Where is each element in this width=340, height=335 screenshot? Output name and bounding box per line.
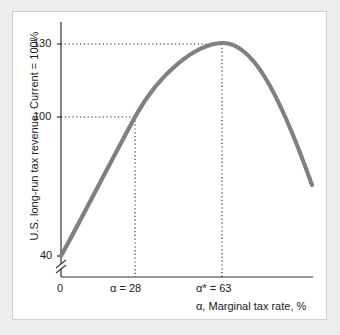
y-tick-label-130: 130 [33,38,51,49]
chart-figure: U.S. long-run tax revenue. Current = 100… [0,0,340,335]
x-tick-label-alpha-star-63: α* = 63 [196,283,231,294]
y-tick-label-40: 40 [40,250,52,261]
figure-panel [12,11,327,320]
x-axis-title: α, Marginal tax rate, % [196,301,306,312]
x-tick-label-zero: 0 [57,283,63,294]
y-tick-label-100: 100 [33,111,51,122]
y-axis-title: U.S. long-run tax revenue. Current = 100… [28,26,40,246]
x-tick-label-alpha-28: α = 28 [110,283,141,294]
